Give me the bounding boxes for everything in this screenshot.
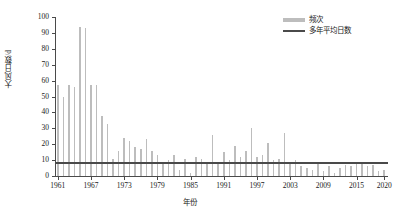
bar bbox=[256, 157, 258, 176]
bar bbox=[206, 162, 208, 176]
x-tick bbox=[191, 177, 192, 180]
x-tick bbox=[224, 177, 225, 180]
bar bbox=[101, 116, 103, 176]
bar bbox=[350, 166, 352, 176]
x-tick-label: 2009 bbox=[308, 181, 338, 190]
x-tick-label: 2003 bbox=[275, 181, 305, 190]
x-tick-label: 1991 bbox=[209, 181, 239, 190]
x-tick bbox=[58, 177, 59, 180]
x-tick-label: 2020 bbox=[369, 181, 399, 190]
bar bbox=[361, 163, 363, 176]
bar bbox=[223, 152, 225, 176]
bar bbox=[339, 168, 341, 176]
x-tick-label: 1967 bbox=[76, 181, 106, 190]
bar bbox=[217, 162, 219, 176]
legend: 频次 多年平均日数 bbox=[283, 14, 351, 36]
bar bbox=[251, 128, 253, 176]
x-tick bbox=[91, 177, 92, 180]
y-tick-label: 70 bbox=[19, 61, 49, 69]
bar bbox=[372, 165, 374, 176]
legend-label-average: 多年平均日数 bbox=[309, 25, 351, 36]
y-tick-label: 10 bbox=[19, 156, 49, 164]
y-tick-label: 60 bbox=[19, 77, 49, 85]
bar bbox=[300, 166, 302, 176]
x-tick bbox=[124, 177, 125, 180]
legend-item-average: 多年平均日数 bbox=[283, 25, 351, 36]
bar bbox=[212, 135, 214, 176]
y-tick-label: 50 bbox=[19, 93, 49, 101]
y-tick-label: 90 bbox=[19, 29, 49, 37]
x-axis-line bbox=[55, 176, 388, 177]
bar bbox=[345, 165, 347, 176]
y-tick-label: 40 bbox=[19, 108, 49, 116]
average-line bbox=[55, 162, 388, 164]
legend-bar-swatch-icon bbox=[283, 18, 305, 22]
x-tick bbox=[323, 177, 324, 180]
y-tick-label: 30 bbox=[19, 124, 49, 132]
bar bbox=[123, 138, 125, 176]
y-tick-label: 80 bbox=[19, 45, 49, 53]
bar bbox=[378, 171, 380, 176]
bar bbox=[356, 162, 358, 176]
bar bbox=[306, 168, 308, 176]
x-axis-title: 年份 bbox=[183, 196, 197, 207]
bar bbox=[312, 170, 314, 176]
bar bbox=[328, 166, 330, 176]
bar bbox=[162, 162, 164, 176]
x-tick-label: 1997 bbox=[242, 181, 272, 190]
y-tick-label: 100 bbox=[19, 13, 49, 21]
x-tick bbox=[257, 177, 258, 180]
bar bbox=[190, 173, 192, 176]
legend-line-swatch-icon bbox=[283, 30, 305, 32]
bar bbox=[317, 163, 319, 176]
x-tick-label: 2015 bbox=[342, 181, 372, 190]
wind-days-chart: 大风日数/d 年份 0102030405060708090100 1961196… bbox=[0, 0, 402, 214]
bar bbox=[195, 157, 197, 176]
bar bbox=[146, 139, 148, 176]
x-tick bbox=[384, 177, 385, 180]
x-tick bbox=[357, 177, 358, 180]
bar bbox=[85, 28, 87, 176]
bar bbox=[383, 170, 385, 176]
legend-label-frequency: 频次 bbox=[309, 14, 323, 25]
bar bbox=[284, 133, 286, 176]
bar bbox=[173, 155, 175, 176]
y-tick bbox=[52, 176, 55, 177]
bar bbox=[240, 157, 242, 176]
x-tick-label: 1985 bbox=[176, 181, 206, 190]
y-axis-title: 大风日数/d bbox=[4, 50, 20, 88]
y-tick-label: 20 bbox=[19, 140, 49, 148]
x-tick-label: 1979 bbox=[142, 181, 172, 190]
x-tick-label: 1973 bbox=[109, 181, 139, 190]
legend-item-frequency: 频次 bbox=[283, 14, 351, 25]
bar bbox=[289, 162, 291, 176]
bar bbox=[323, 171, 325, 176]
bar bbox=[367, 166, 369, 176]
bar bbox=[79, 27, 81, 176]
x-tick bbox=[290, 177, 291, 180]
plot-area bbox=[55, 17, 387, 176]
bar bbox=[334, 173, 336, 176]
x-tick-label: 1961 bbox=[43, 181, 73, 190]
x-tick bbox=[157, 177, 158, 180]
bar bbox=[107, 124, 109, 176]
bar bbox=[129, 141, 131, 176]
bar bbox=[63, 97, 65, 177]
bar bbox=[262, 155, 264, 176]
bar bbox=[179, 170, 181, 176]
y-tick-label: 0 bbox=[19, 172, 49, 180]
bar bbox=[157, 155, 159, 176]
bar bbox=[267, 143, 269, 176]
